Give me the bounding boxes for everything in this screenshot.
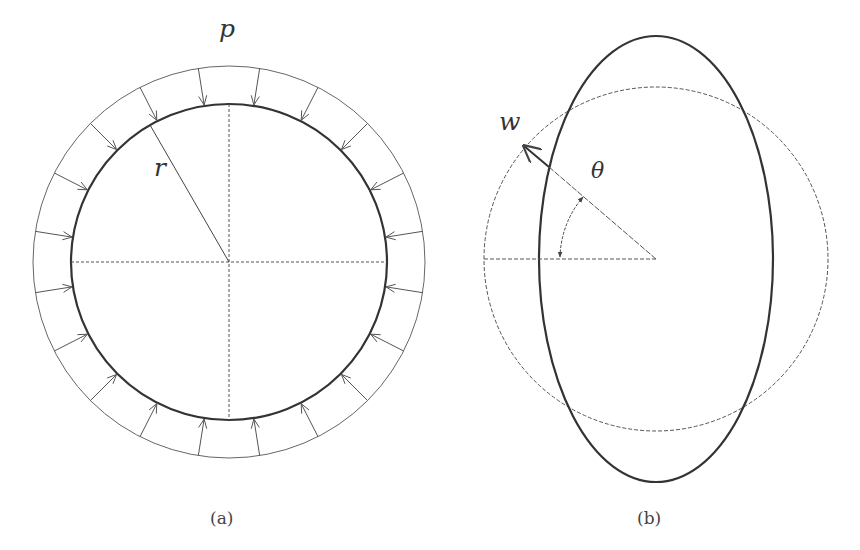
pressure-arrow	[341, 374, 367, 400]
pressure-arrow	[54, 173, 87, 190]
pressure-arrow	[301, 404, 318, 437]
pressure-arrow	[254, 419, 260, 456]
pressure-arrow	[140, 404, 157, 437]
pressure-arrow	[198, 68, 204, 105]
displacement-label: w	[499, 107, 520, 136]
pressure-arrow	[140, 87, 157, 120]
pressure-arrow	[341, 123, 367, 149]
pressure-arrow	[254, 68, 260, 105]
pressure-arrow	[301, 87, 318, 120]
pressure-arrow	[35, 287, 72, 293]
diagram-canvas	[0, 0, 860, 550]
pressure-arrow	[198, 419, 204, 456]
pressure-arrow	[386, 287, 423, 293]
pressure-arrow	[35, 231, 72, 237]
radius-label: r	[154, 153, 166, 182]
angle-arc	[560, 197, 583, 257]
caption-b: (b)	[637, 508, 661, 528]
pressure-arrow	[90, 123, 116, 149]
pressure-arrow	[90, 374, 116, 400]
figure-a	[33, 66, 425, 458]
pressure-arrow	[386, 231, 423, 237]
pressure-label: p	[219, 14, 235, 43]
angle-label: θ	[591, 158, 604, 183]
pressure-arrow	[371, 334, 404, 351]
figure-b	[484, 36, 828, 482]
radius-line	[150, 125, 229, 262]
caption-a: (a)	[210, 508, 233, 528]
pressure-arrow	[371, 173, 404, 190]
displacement-arrow	[524, 146, 549, 167]
pressure-arrow	[54, 334, 87, 351]
